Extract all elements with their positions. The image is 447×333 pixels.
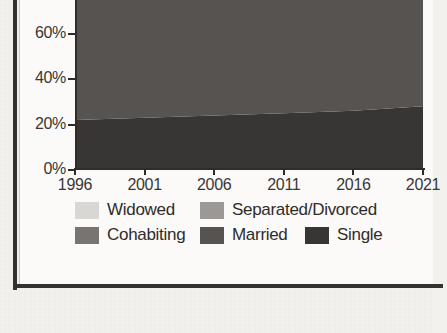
x-tick-label: 2021 <box>393 176 447 194</box>
legend-item-cohabiting[interactable]: Cohabiting <box>75 225 185 245</box>
legend-label: Cohabiting <box>107 225 185 245</box>
x-tick-mark <box>422 168 424 175</box>
x-tick-mark <box>352 168 354 175</box>
plot-area <box>75 0 423 170</box>
page-frame-left <box>13 0 17 290</box>
legend-item-single[interactable]: Single <box>305 225 382 245</box>
y-tick-label: 40% <box>20 70 66 86</box>
legend-row: CohabitingMarriedSingle <box>20 225 433 247</box>
legend-swatch-icon <box>75 202 99 219</box>
x-tick-label: 2001 <box>115 176 175 194</box>
y-tick-label: 0% <box>20 161 66 177</box>
page-frame-bottom <box>13 284 443 288</box>
legend-swatch-icon <box>200 227 224 244</box>
x-tick-label: 2016 <box>323 176 383 194</box>
legend-label: Single <box>337 225 382 245</box>
legend-swatch-icon <box>305 227 329 244</box>
stacked-area-series-group <box>75 0 423 170</box>
legend-row: WidowedSeparated/Divorced <box>20 200 433 222</box>
legend-label: Married <box>232 225 288 245</box>
y-axis-line <box>75 0 77 170</box>
y-tick-mark <box>68 33 76 35</box>
y-tick-mark <box>68 124 76 126</box>
legend-item-married[interactable]: Married <box>200 225 288 245</box>
legend-label: Widowed <box>107 200 175 220</box>
y-tick-label: 20% <box>20 116 66 132</box>
legend-swatch-icon <box>200 202 224 219</box>
legend-swatch-icon <box>75 227 99 244</box>
legend-label: Separated/Divorced <box>232 200 377 220</box>
x-tick-mark <box>144 168 146 175</box>
y-tick-label: 60% <box>20 25 66 41</box>
x-tick-label: 2011 <box>254 176 314 194</box>
x-tick-label: 2006 <box>184 176 244 194</box>
legend-item-widowed[interactable]: Widowed <box>75 200 175 220</box>
x-tick-mark <box>283 168 285 175</box>
area-band-married <box>75 0 423 120</box>
y-tick-mark <box>68 78 76 80</box>
frame-inner-rule <box>19 0 20 286</box>
x-tick-mark <box>74 168 76 175</box>
x-tick-label: 1996 <box>45 176 105 194</box>
x-tick-mark <box>213 168 215 175</box>
figure-panel: 80%60%40%20%0% 199620012006201120162021 … <box>20 0 433 284</box>
legend-item-separated-divorced[interactable]: Separated/Divorced <box>200 200 377 220</box>
x-axis-line <box>75 168 425 170</box>
